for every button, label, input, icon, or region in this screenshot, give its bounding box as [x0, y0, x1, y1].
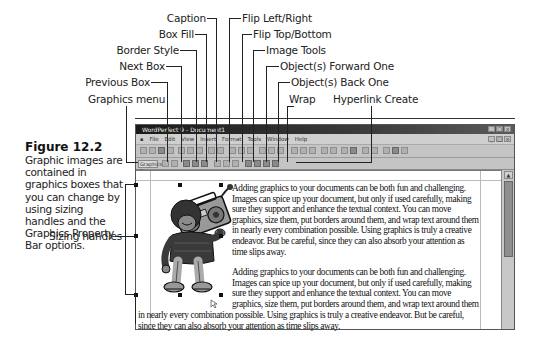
save-icon[interactable] [158, 147, 165, 154]
sizing-handle-bottom-center[interactable] [178, 293, 182, 297]
menu-view[interactable]: View [181, 136, 194, 142]
callout-caption: Caption [167, 12, 206, 24]
sizing-handle-bottom-right[interactable] [219, 293, 223, 297]
print-icon[interactable] [167, 147, 174, 154]
clipart-image[interactable] [154, 183, 240, 295]
callout-flip-top-bottom: Flip Top/Bottom [253, 28, 332, 40]
vertical-scrollbar[interactable]: ▲ [501, 170, 514, 329]
border-style-icon[interactable] [183, 160, 190, 167]
menu-file[interactable]: File [149, 136, 158, 142]
minimize-button[interactable]: _ [488, 126, 495, 132]
next-box-icon[interactable] [171, 160, 178, 167]
sizing-handle-middle-right[interactable] [219, 234, 223, 238]
doc-minimize-button[interactable]: _ [488, 136, 495, 142]
leader-box-fill-v [206, 34, 207, 162]
back-arrow-icon[interactable] [392, 147, 399, 154]
leader-wrap-h [287, 106, 294, 107]
objects-forward-one-icon[interactable] [245, 160, 252, 167]
title-bar[interactable]: WordPerfect 9 - Document1 _ □ × [136, 125, 514, 134]
leader-previous-box-h [151, 82, 168, 83]
leader-border-style-v [196, 50, 197, 162]
leader-image-tools-h [253, 50, 265, 51]
callout-graphics-menu: Graphics menu [88, 93, 165, 105]
figure-title: Figure 12.2 [25, 140, 102, 154]
close-button[interactable]: × [504, 126, 511, 132]
new-icon[interactable] [140, 147, 147, 154]
leader-hyperlink-h [296, 162, 372, 163]
bold-icon[interactable] [229, 147, 236, 154]
mouse-pointer-icon [210, 299, 218, 309]
redo-icon[interactable] [217, 147, 224, 154]
sizing-handle-top-center[interactable] [178, 183, 182, 187]
menu-doc-icon[interactable]: ▪ [140, 136, 143, 142]
leader-next-box-h [166, 66, 182, 67]
menu-insert[interactable]: Insert [200, 136, 216, 142]
zoom-icon[interactable] [341, 147, 348, 154]
columns-icon[interactable] [300, 147, 307, 154]
forward-arrow-icon[interactable] [401, 147, 408, 154]
scroll-up-button[interactable]: ▲ [504, 171, 513, 179]
leader-forward-one-h [266, 66, 279, 67]
menu-format[interactable]: Format [222, 136, 241, 142]
menu-bar: ▪ File Edit View Insert Format Tools Win… [136, 134, 514, 145]
menu-help[interactable]: Help [295, 136, 308, 142]
open-icon[interactable] [149, 147, 156, 154]
leader-sizing-outer-v [125, 184, 126, 294]
leader-previous-box-v [167, 82, 168, 162]
maximize-button[interactable]: □ [496, 126, 503, 132]
undo-icon[interactable] [208, 147, 215, 154]
sizing-handle-top-right[interactable] [219, 183, 223, 187]
paragraph-2: Adding graphics to your documents can be… [232, 267, 482, 309]
menu-tools[interactable]: Tools [248, 136, 262, 142]
bullets-icon[interactable] [330, 147, 337, 154]
document-window-controls: _ □ × [488, 136, 511, 142]
leader-sizing-inner-v [135, 294, 136, 324]
document-area[interactable]: Adding graphics to your documents can be… [136, 170, 502, 329]
leader-sizing-top [125, 184, 136, 185]
callout-sizing-handles: Sizing handles [49, 230, 122, 242]
chart-icon[interactable] [309, 147, 316, 154]
callout-next-box: Next Box [119, 60, 165, 72]
callout-hyperlink-create: Hyperlink Create [333, 93, 418, 105]
leader-graphics-menu-v [126, 106, 127, 162]
format-icon[interactable] [321, 147, 328, 154]
doc-restore-button[interactable]: □ [496, 136, 503, 142]
leader-wrap-v [287, 106, 288, 162]
objects-back-one-icon[interactable] [254, 160, 261, 167]
list-icon[interactable] [383, 147, 390, 154]
graphics-menu-button[interactable]: Graphics ▾ [138, 160, 158, 168]
callout-wrap: Wrap [289, 93, 316, 105]
callout-previous-box: Previous Box [85, 76, 150, 88]
line-icon[interactable] [259, 147, 266, 154]
paste-icon[interactable] [196, 147, 203, 154]
spell-icon[interactable] [362, 147, 369, 154]
leader-border-style-h [180, 50, 197, 51]
table-icon[interactable] [291, 147, 298, 154]
callout-flip-left-right: Flip Left/Right [242, 12, 312, 24]
leader-sizing-mid [116, 236, 136, 237]
leader-forward-one-v [266, 66, 267, 162]
clipart-icon[interactable] [350, 147, 357, 154]
draw-icon[interactable] [268, 147, 275, 154]
main-toolbar [136, 145, 514, 158]
leader-flip-tb-h [242, 34, 252, 35]
callout-image-tools: Image Tools [266, 44, 326, 56]
paragraph-2-continued: in nearly every combination possible. Us… [138, 310, 488, 331]
leader-flip-lr-v [229, 18, 230, 162]
leader-flip-tb-v [242, 34, 243, 162]
image-tools-icon[interactable] [232, 160, 239, 167]
leader-back-one-h [278, 82, 290, 83]
scroll-thumb[interactable] [504, 181, 513, 257]
doc-close-button[interactable]: × [504, 136, 511, 142]
leader-back-one-v [278, 82, 279, 162]
leader-top-bar [135, 118, 515, 119]
grammar-icon[interactable] [371, 147, 378, 154]
leader-caption-v [216, 18, 217, 162]
leader-image-tools-v [253, 50, 254, 162]
copy-icon[interactable] [187, 147, 194, 154]
leader-next-box-v [181, 66, 182, 162]
leader-graphics-menu-h [126, 162, 138, 163]
left-margin-guide [150, 171, 151, 329]
top-margin-guide [136, 180, 502, 181]
callout-box-fill: Box Fill [159, 28, 194, 40]
